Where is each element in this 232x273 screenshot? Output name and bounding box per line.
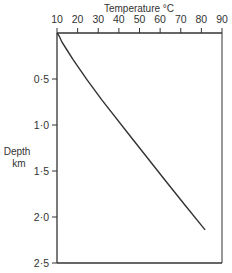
x-tick-label: 10 <box>51 13 63 25</box>
x-tick-label: 40 <box>113 13 125 25</box>
y-tick-label: 0·5 <box>34 73 49 85</box>
y-ticks <box>52 79 57 263</box>
y-tick-labels: 0·51·01·52·02·5 <box>34 73 49 269</box>
x-ticks <box>57 28 222 33</box>
x-tick-label: 60 <box>154 13 166 25</box>
x-tick-labels: 102030405060708090 <box>51 13 228 25</box>
y-tick-label: 1·5 <box>34 165 49 177</box>
geothermal-gradient-chart: Temperature °C 102030405060708090 0·51·0… <box>0 0 232 273</box>
x-tick-label: 30 <box>92 13 104 25</box>
x-tick-label: 70 <box>175 13 187 25</box>
x-tick-label: 90 <box>216 13 228 25</box>
x-tick-label: 20 <box>72 13 84 25</box>
y-axis-title-line1: Depth <box>4 146 31 157</box>
x-tick-label: 80 <box>196 13 208 25</box>
y-tick-label: 2·5 <box>34 257 49 269</box>
y-axis-title-line2: km <box>12 158 25 169</box>
y-tick-label: 2·0 <box>34 211 49 223</box>
temperature-depth-curve <box>57 33 205 230</box>
x-tick-label: 50 <box>134 13 146 25</box>
y-tick-label: 1·0 <box>34 119 49 131</box>
